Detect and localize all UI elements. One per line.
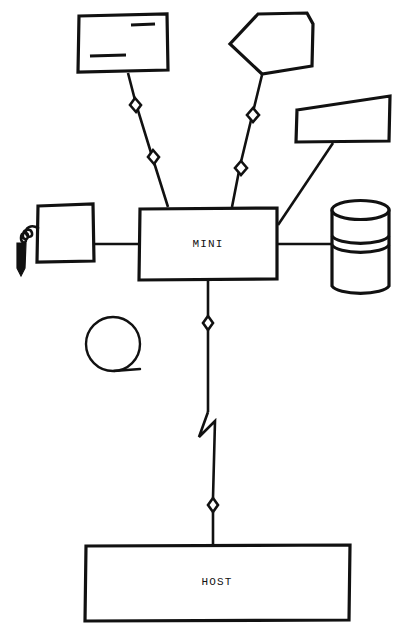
link-line-plotter bbox=[232, 75, 262, 207]
disk-drive-band-lower bbox=[332, 245, 389, 252]
line-printer[interactable] bbox=[296, 96, 390, 142]
host-computer[interactable]: HOST bbox=[85, 545, 350, 621]
tape-reel-circle bbox=[86, 317, 140, 371]
modem-marker-icon bbox=[208, 498, 218, 512]
mini-computer-label: MINI bbox=[192, 238, 223, 250]
crt-terminal-text-rule-bottom bbox=[90, 55, 126, 56]
modem-marker-icon bbox=[235, 161, 247, 175]
tape-reel[interactable] bbox=[86, 317, 140, 371]
plotter[interactable] bbox=[230, 13, 313, 74]
network-topology-diagram: MINI HOST bbox=[0, 0, 400, 641]
crt-terminal-text-rule-top bbox=[131, 24, 155, 25]
modem-marker-icon bbox=[247, 108, 259, 122]
host-computer-label: HOST bbox=[201, 576, 232, 588]
light-pen-wand-icon bbox=[17, 243, 26, 276]
crt-terminal[interactable] bbox=[78, 14, 168, 72]
diagram-canvas: MINI HOST bbox=[0, 0, 400, 641]
link-mini-to-host bbox=[199, 280, 218, 546]
disk-drive-top-platter bbox=[332, 201, 389, 220]
mini-computer[interactable]: MINI bbox=[139, 208, 277, 280]
link-plotter-to-mini bbox=[232, 75, 262, 207]
line-printer-body bbox=[296, 96, 390, 142]
link-crt-terminal-to-mini bbox=[128, 73, 168, 207]
plotter-body bbox=[230, 13, 313, 74]
coiled-cord-icon bbox=[21, 226, 38, 242]
link-line-printer bbox=[278, 143, 333, 225]
modem-marker-icon bbox=[203, 316, 213, 330]
light-pen-terminal-body bbox=[37, 204, 94, 262]
disk-drive-band-upper bbox=[332, 236, 389, 243]
lightning-break-icon bbox=[199, 412, 215, 498]
disk-drive[interactable] bbox=[332, 201, 389, 294]
light-pen-terminal[interactable] bbox=[17, 204, 94, 276]
link-line-printer-to-mini bbox=[278, 143, 333, 225]
link-line-crt bbox=[128, 73, 168, 207]
modem-marker-icon bbox=[130, 98, 141, 112]
